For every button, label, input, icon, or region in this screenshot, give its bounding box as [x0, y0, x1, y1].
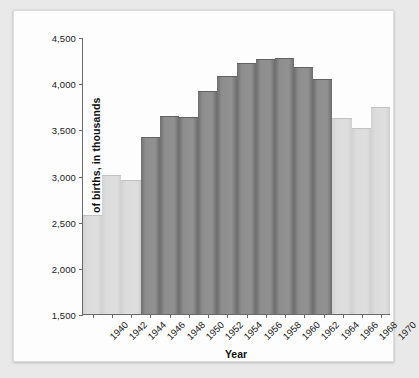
y-axis-tick-label: 2,000	[21, 263, 83, 274]
x-axis-tick-label: 1960	[299, 319, 322, 342]
y-axis-tick-label: 3,000	[21, 171, 83, 182]
bar-1940	[83, 215, 102, 314]
x-axis-tick-mark	[112, 314, 113, 318]
y-axis-tick-label: 4,500	[21, 33, 83, 44]
x-axis-tick-mark	[170, 314, 171, 318]
y-axis-tick-label: 1,500	[21, 310, 83, 321]
bar-1956	[237, 63, 256, 314]
x-axis-tick-label: 1948	[184, 319, 207, 342]
x-axis-tick-mark	[381, 314, 382, 318]
x-axis-tick-label: 1954	[242, 319, 265, 342]
bar-series	[83, 38, 390, 314]
y-axis-tick-label: 2,500	[21, 217, 83, 228]
x-axis-tick-label: 1962	[319, 319, 342, 342]
bar-1944	[121, 180, 140, 314]
x-axis-tick-label: 1964	[338, 319, 361, 342]
x-axis-tick-mark	[266, 314, 267, 318]
bar-1954	[217, 76, 236, 314]
x-axis-tick-mark	[362, 314, 363, 318]
bar-1968	[352, 128, 371, 314]
chart-card: Number of births, in thousands 4,5004,00…	[13, 10, 394, 362]
bar-1946	[141, 137, 160, 314]
y-axis-tick-label: 3,500	[21, 125, 83, 136]
bar-1958	[256, 59, 275, 314]
x-axis-tick-label: 1942	[126, 319, 149, 342]
x-axis-tick-mark	[93, 314, 94, 318]
x-axis-tick-mark	[324, 314, 325, 318]
x-axis-tick-label: 1956	[261, 319, 284, 342]
x-axis-tick-mark	[285, 314, 286, 318]
bar-1964	[313, 79, 332, 314]
bar-1942	[102, 175, 121, 314]
x-axis-tick-mark	[343, 314, 344, 318]
bar-1948	[160, 116, 179, 314]
x-axis-tick-mark	[208, 314, 209, 318]
x-axis-tick-mark	[131, 314, 132, 318]
bar-1970	[371, 107, 390, 314]
x-axis-tick-label: 1940	[107, 319, 130, 342]
x-axis-tick-label: 1946	[165, 319, 188, 342]
bar-1962	[294, 67, 313, 314]
x-axis-label: Year	[82, 348, 390, 360]
x-axis-tick-label: 1968	[376, 319, 399, 342]
x-axis-tick-mark	[189, 314, 190, 318]
plot-area: 4,5004,0003,5003,0002,5002,0001,500 1940…	[82, 38, 390, 315]
x-axis-tick-label: 1950	[203, 319, 226, 342]
bar-1950	[179, 117, 198, 314]
x-axis-tick-mark	[247, 314, 248, 318]
x-axis-tick-label: 1944	[145, 319, 168, 342]
x-axis-tick-mark	[304, 314, 305, 318]
x-axis-tick-label: 1966	[357, 319, 380, 342]
x-axis-tick-mark	[227, 314, 228, 318]
x-axis-tick-label: 1958	[280, 319, 303, 342]
bar-1966	[332, 118, 351, 314]
x-axis-tick-mark	[150, 314, 151, 318]
y-axis-tick-label: 4,000	[21, 79, 83, 90]
x-axis-tick-label: 1970	[396, 319, 419, 342]
bar-1960	[275, 58, 294, 314]
x-axis-tick-label: 1952	[222, 319, 245, 342]
bar-1952	[198, 91, 217, 314]
